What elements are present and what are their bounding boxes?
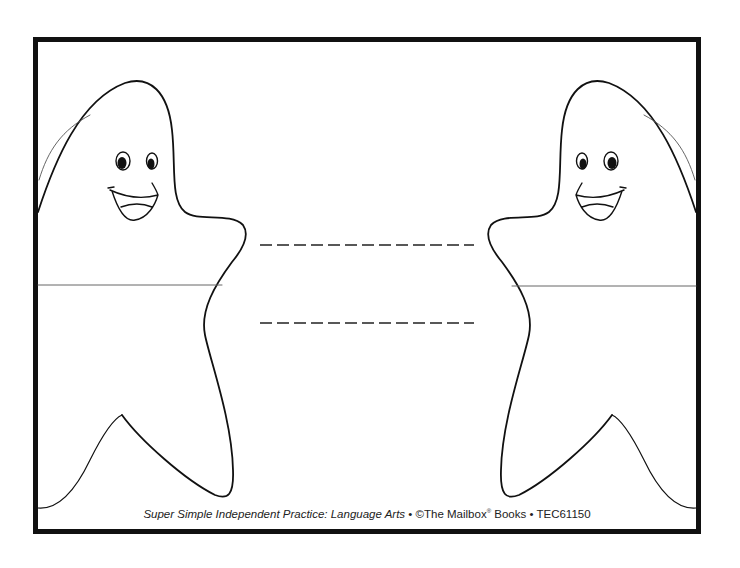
worksheet-artwork: [0, 0, 740, 568]
footer-code: TEC61150: [536, 508, 590, 520]
footer-publisher-suffix: Books: [494, 508, 526, 520]
footer-separator: •: [529, 508, 533, 520]
left-star: [38, 81, 246, 508]
left-star-pupil-left: [118, 157, 127, 169]
left-star-outline-foot: [38, 415, 122, 508]
right-star: [488, 81, 696, 508]
right-star-outline-top: [488, 81, 696, 497]
footer-title: Super Simple Independent Practice: Langu…: [143, 508, 405, 520]
footer-credit: Super Simple Independent Practice: Langu…: [33, 508, 701, 520]
footer-copyright: ©The Mailbox: [416, 508, 487, 520]
left-star-mouth: [108, 183, 158, 220]
right-star-outline-foot: [612, 415, 696, 508]
registered-mark: ®: [487, 508, 491, 514]
left-star-outline-top: [38, 81, 246, 497]
footer-separator: •: [408, 508, 412, 520]
right-star-mouth: [576, 183, 626, 220]
left-star-pupil-right: [148, 159, 155, 170]
right-star-pupil-left: [580, 159, 587, 170]
right-star-pupil-right: [608, 157, 617, 169]
